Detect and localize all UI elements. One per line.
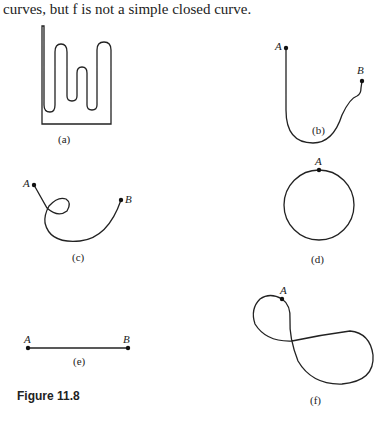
label-b-end: B (357, 64, 364, 76)
point-d-a (317, 168, 321, 172)
caption-c: (c) (72, 251, 84, 263)
label-c-end: B (125, 193, 132, 205)
label-e-end: B (123, 333, 130, 345)
caption-d: (d) (311, 253, 324, 265)
point-b-a (284, 46, 288, 50)
point-e-b (126, 346, 130, 350)
label-b-start: A (275, 40, 282, 52)
caption-a: (a) (58, 133, 70, 145)
point-c-a (32, 183, 36, 187)
curve-a (42, 26, 111, 124)
point-f-a (280, 297, 284, 301)
figure-canvas (0, 0, 385, 421)
label-f-point: A (280, 284, 287, 296)
label-e-start: A (24, 333, 31, 345)
point-e-a (26, 346, 30, 350)
curve-d (284, 170, 354, 240)
figure-title: Figure 11.8 (17, 389, 80, 403)
point-c-b (119, 198, 123, 202)
caption-b: (b) (312, 124, 325, 136)
label-d-point: A (315, 155, 322, 167)
label-c-start: A (23, 177, 30, 189)
curve-f (253, 296, 373, 385)
point-b-b (360, 79, 364, 83)
curve-c (34, 185, 121, 241)
caption-e: (e) (73, 355, 85, 367)
caption-f: (f) (310, 394, 321, 406)
